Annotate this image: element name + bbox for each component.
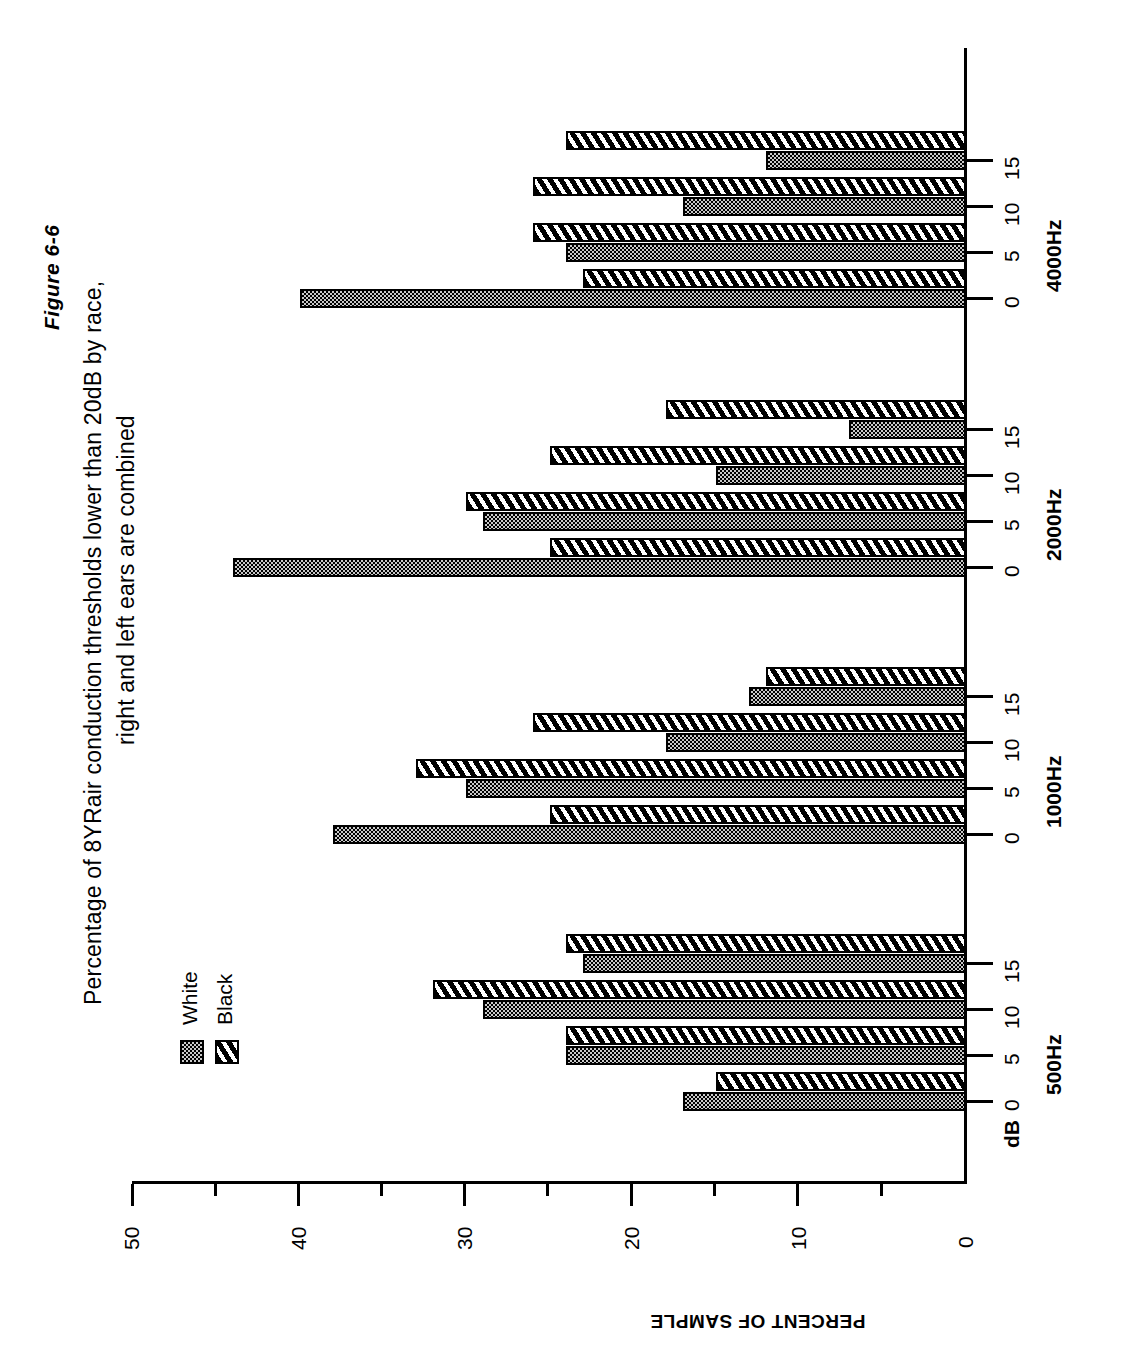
category-tick <box>967 251 993 254</box>
bar-2000Hz-5dB-black <box>466 492 966 511</box>
category-tick <box>967 1008 993 1011</box>
bar-2000Hz-0dB-white <box>233 558 966 577</box>
bar-500Hz-10dB-black <box>433 980 966 999</box>
category-label-15: 15 <box>1000 960 1024 983</box>
value-tick-label-50: 50 <box>120 1227 144 1250</box>
category-label-0: 0 <box>1000 296 1024 308</box>
bar-500Hz-0dB-black <box>716 1072 966 1091</box>
category-label-15: 15 <box>1000 426 1024 449</box>
category-label-10: 10 <box>1000 203 1024 226</box>
value-tick-label-30: 30 <box>453 1227 477 1250</box>
bar-1000Hz-15dB-black <box>766 667 966 686</box>
value-tick-minor <box>713 1184 716 1196</box>
category-tick <box>967 566 993 569</box>
category-tick <box>967 787 993 790</box>
category-tick <box>967 428 993 431</box>
group-label-1000hz: 1000Hz <box>1042 756 1066 828</box>
bar-4000Hz-0dB-white <box>300 289 966 308</box>
bar-500Hz-15dB-black <box>566 934 966 953</box>
category-label-0: 0 <box>1000 565 1024 577</box>
category-label-5: 5 <box>1000 1053 1024 1065</box>
category-tick <box>967 833 993 836</box>
bar-500Hz-15dB-white <box>583 954 966 973</box>
value-tick-label-10: 10 <box>787 1227 811 1250</box>
category-label-10: 10 <box>1000 739 1024 762</box>
bar-4000Hz-0dB-black <box>583 269 966 288</box>
value-axis-title: PERCENT OF SAMPLE <box>650 1310 865 1332</box>
category-tick <box>967 159 993 162</box>
value-tick-label-0: 0 <box>954 1236 978 1248</box>
bar-1000Hz-5dB-black <box>416 759 966 778</box>
group-label-4000hz: 4000Hz <box>1042 220 1066 292</box>
bar-1000Hz-5dB-white <box>466 779 966 798</box>
bar-2000Hz-15dB-white <box>849 420 966 439</box>
bar-4000Hz-15dB-black <box>566 131 966 150</box>
value-axis-line <box>132 1181 967 1184</box>
category-label-0: 0 <box>1000 1099 1024 1111</box>
category-label-15: 15 <box>1000 693 1024 716</box>
group-label-2000hz: 2000Hz <box>1042 489 1066 561</box>
bar-4000Hz-5dB-black <box>533 223 966 242</box>
bar-1000Hz-15dB-white <box>749 687 966 706</box>
category-label-5: 5 <box>1000 786 1024 798</box>
figure-page: Figure 6-6 Percentage of 8YRair conducti… <box>0 0 1135 1345</box>
category-tick <box>967 297 993 300</box>
value-tick-major <box>796 1184 799 1206</box>
category-label-5: 5 <box>1000 250 1024 262</box>
category-tick <box>967 695 993 698</box>
bar-4000Hz-15dB-white <box>766 151 966 170</box>
bar-4000Hz-5dB-white <box>566 243 966 262</box>
category-tick <box>967 1100 993 1103</box>
bar-500Hz-10dB-white <box>483 1000 966 1019</box>
category-tick <box>967 474 993 477</box>
category-label-15: 15 <box>1000 157 1024 180</box>
bar-4000Hz-10dB-white <box>683 197 966 216</box>
bar-1000Hz-0dB-black <box>550 805 967 824</box>
bar-2000Hz-5dB-white <box>483 512 966 531</box>
group-label-500hz: 500Hz <box>1042 1034 1066 1095</box>
bar-500Hz-5dB-white <box>566 1046 966 1065</box>
category-tick <box>967 741 993 744</box>
value-tick-minor <box>880 1184 883 1196</box>
value-tick-major <box>131 1184 134 1206</box>
value-tick-major <box>297 1184 300 1206</box>
bar-1000Hz-10dB-black <box>533 713 966 732</box>
value-tick-major <box>630 1184 633 1206</box>
category-label-5: 5 <box>1000 519 1024 531</box>
category-tick <box>967 962 993 965</box>
value-tick-label-20: 20 <box>620 1227 644 1250</box>
bar-500Hz-0dB-white <box>683 1092 966 1111</box>
category-label-10: 10 <box>1000 1006 1024 1029</box>
bar-4000Hz-10dB-black <box>533 177 966 196</box>
value-tick-major <box>463 1184 466 1206</box>
value-tick-label-40: 40 <box>287 1227 311 1250</box>
category-label-10: 10 <box>1000 472 1024 495</box>
bar-1000Hz-10dB-white <box>666 733 966 752</box>
bar-2000Hz-10dB-black <box>550 446 967 465</box>
value-tick-minor <box>380 1184 383 1196</box>
plot-area: 50 40 30 20 10 0 PERCENT OF SAMPLE 0 5 1… <box>0 0 1135 1345</box>
category-label-0: 0 <box>1000 832 1024 844</box>
value-tick-minor <box>214 1184 217 1196</box>
category-axis-unit: dB <box>1000 1120 1024 1148</box>
bar-1000Hz-0dB-white <box>333 825 966 844</box>
category-tick <box>967 520 993 523</box>
category-tick <box>967 1054 993 1057</box>
bar-2000Hz-15dB-black <box>666 400 966 419</box>
category-tick <box>967 205 993 208</box>
value-tick-minor <box>546 1184 549 1196</box>
bar-2000Hz-10dB-white <box>716 466 966 485</box>
bar-500Hz-5dB-black <box>566 1026 966 1045</box>
bar-2000Hz-0dB-black <box>550 538 967 557</box>
